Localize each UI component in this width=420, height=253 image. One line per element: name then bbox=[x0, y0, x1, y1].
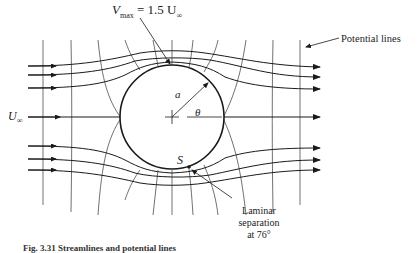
radius-label: a bbox=[175, 88, 181, 100]
figure-caption: Fig. 3.31 Streamlines and potential line… bbox=[23, 243, 176, 253]
separation-point-marker bbox=[187, 165, 191, 169]
vmax-value-subscript: ∞ bbox=[176, 11, 182, 20]
separation-line-2: separation bbox=[224, 217, 294, 229]
vmax-label: Vmax = 1.5 U∞ bbox=[112, 2, 182, 20]
vmax-pointer-arrow bbox=[140, 18, 170, 64]
potential-lines-pointer-arrow bbox=[306, 38, 339, 47]
upstream-arrows bbox=[28, 66, 60, 170]
potential-lines-label: Potential lines bbox=[341, 33, 401, 44]
angle-label: θ bbox=[195, 106, 200, 118]
separation-point-label: S bbox=[177, 153, 183, 168]
freestream-velocity-label: U∞ bbox=[8, 109, 22, 125]
vmax-value: = 1.5 U bbox=[137, 2, 176, 17]
vmax-symbol: V bbox=[112, 2, 120, 17]
separation-line-1: Laminar bbox=[224, 205, 294, 217]
u-subscript: ∞ bbox=[17, 116, 23, 125]
vmax-subscript: max bbox=[120, 11, 134, 20]
u-symbol: U bbox=[8, 109, 17, 123]
separation-line-3: at 76° bbox=[224, 229, 294, 241]
separation-annotation: Laminar separation at 76° bbox=[224, 205, 294, 241]
